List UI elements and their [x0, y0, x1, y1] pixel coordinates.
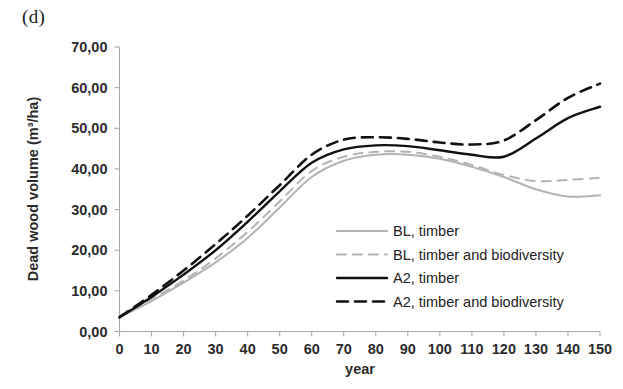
figure-panel-d: (d) 0,0010,0020,0030,0040,0050,0060,0070…: [0, 0, 623, 389]
x-tick-label: 20: [175, 341, 191, 357]
x-axis-title: year: [345, 361, 375, 377]
legend-label-2: A2, timber: [393, 270, 459, 286]
x-tick-label: 140: [556, 341, 580, 357]
x-tick-label: 60: [304, 341, 320, 357]
y-tick-label: 0,00: [79, 324, 107, 340]
panel-label: (d): [22, 6, 45, 28]
legend-label-3: A2, timber and biodiversity: [393, 294, 565, 310]
x-tick-label: 70: [336, 341, 352, 357]
y-tick-label: 70,00: [71, 39, 107, 55]
series-group: [120, 84, 601, 318]
y-tick-label: 20,00: [71, 242, 107, 258]
x-tick-label: 10: [143, 341, 159, 357]
chart-legend: BL, timberBL, timber and biodiversityA2,…: [337, 223, 565, 310]
y-tick-label: 30,00: [71, 202, 107, 218]
x-tick-label: 30: [208, 341, 224, 357]
legend-label-0: BL, timber: [393, 223, 459, 239]
series-line-2: [120, 107, 601, 318]
x-tick-label: 80: [368, 341, 384, 357]
x-tick-label: 100: [428, 341, 452, 357]
x-tick-label: 150: [588, 341, 612, 357]
y-tick-label: 60,00: [71, 80, 107, 96]
x-tick-label: 110: [460, 341, 483, 357]
x-tick-group: 0102030405060708090100110120130140150: [115, 332, 612, 357]
series-line-3: [120, 84, 601, 318]
x-tick-label: 120: [492, 341, 516, 357]
y-tick-label: 50,00: [71, 120, 107, 136]
y-axis-title: Dead wood volume (m³/ha): [25, 97, 41, 282]
x-tick-label: 0: [115, 341, 123, 357]
series-line-1: [120, 151, 601, 317]
x-tick-label: 50: [272, 341, 288, 357]
x-tick-label: 90: [400, 341, 416, 357]
dead-wood-volume-line-chart: 0,0010,0020,0030,0040,0050,0060,0070,00 …: [0, 0, 623, 389]
x-tick-label: 130: [524, 341, 548, 357]
x-tick-label: 40: [240, 341, 256, 357]
y-tick-label: 10,00: [71, 283, 107, 299]
y-tick-group: 0,0010,0020,0030,0040,0050,0060,0070,00: [71, 39, 119, 340]
y-tick-label: 40,00: [71, 161, 107, 177]
legend-label-1: BL, timber and biodiversity: [393, 247, 565, 263]
